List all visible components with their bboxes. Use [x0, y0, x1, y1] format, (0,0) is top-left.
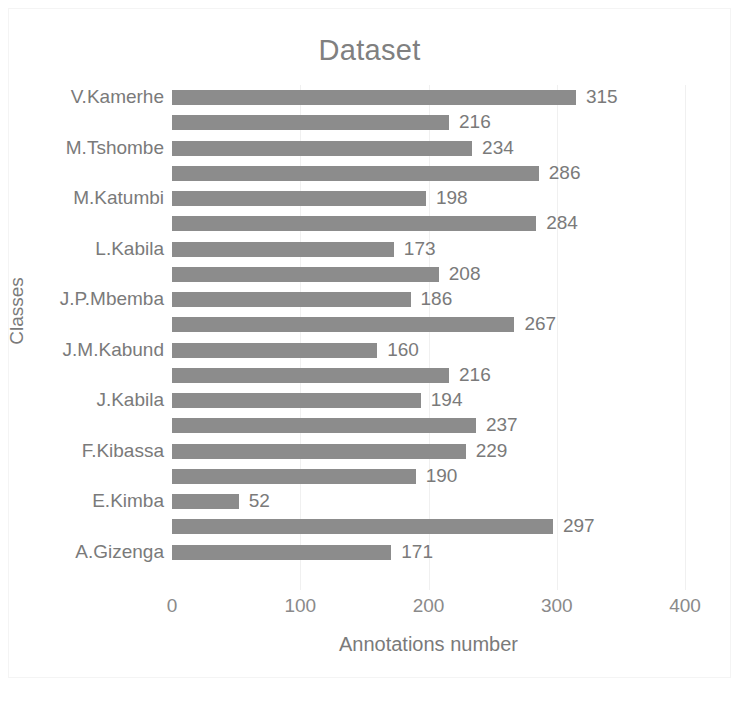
- bar[interactable]: [172, 90, 576, 105]
- plot-area: 3152162342861982841732081862671602161942…: [172, 85, 685, 590]
- x-axis-tick-300: 300: [541, 595, 573, 617]
- bar-value-label: 190: [426, 465, 458, 487]
- bar-value-label: 284: [546, 212, 578, 234]
- bar[interactable]: [172, 242, 394, 257]
- y-axis-tick-label: E.Kimba: [4, 490, 164, 512]
- bar-value-label: 237: [486, 414, 518, 436]
- bar-row: 186: [172, 287, 685, 312]
- y-axis-tick-label: L.Kabila: [4, 238, 164, 260]
- bar-row: 198: [172, 186, 685, 211]
- bar[interactable]: [172, 115, 449, 130]
- bar-value-label: 194: [431, 389, 463, 411]
- bar-value-label: 208: [449, 263, 481, 285]
- bar-value-label: 315: [586, 86, 618, 108]
- bar-row: 315: [172, 85, 685, 110]
- bar[interactable]: [172, 545, 391, 560]
- bar-value-label: 297: [563, 515, 595, 537]
- bar-value-label: 171: [401, 541, 433, 563]
- chart-title: Dataset: [0, 34, 739, 67]
- bar[interactable]: [172, 343, 377, 358]
- bar-row: 216: [172, 363, 685, 388]
- bar-value-label: 186: [421, 288, 453, 310]
- bar-row: 190: [172, 464, 685, 489]
- y-axis-tick-label: M.Tshombe: [4, 137, 164, 159]
- bar-row: 216: [172, 110, 685, 135]
- y-axis-tick-label: V.Kamerhe: [4, 86, 164, 108]
- bar[interactable]: [172, 393, 421, 408]
- bar[interactable]: [172, 494, 239, 509]
- bar-row: 286: [172, 161, 685, 186]
- x-axis-tick-labels: 0100200300400: [172, 595, 685, 621]
- gridline-400: [685, 85, 686, 590]
- bar-row: 194: [172, 388, 685, 413]
- bar-value-label: 216: [459, 364, 491, 386]
- bar-row: 208: [172, 262, 685, 287]
- bar-value-label: 229: [476, 440, 508, 462]
- bar[interactable]: [172, 469, 416, 484]
- y-axis-tick-label: J.P.Mbemba: [4, 288, 164, 310]
- bar[interactable]: [172, 317, 514, 332]
- bar-row: 234: [172, 136, 685, 161]
- y-axis-tick-label: A.Gizenga: [4, 541, 164, 563]
- x-axis-tick-100: 100: [284, 595, 316, 617]
- y-axis-tick-label: M.Katumbi: [4, 187, 164, 209]
- bar[interactable]: [172, 191, 426, 206]
- bar[interactable]: [172, 519, 553, 534]
- y-axis-tick-labels: V.KamerheM.TshombeM.KatumbiL.KabilaJ.P.M…: [0, 85, 164, 590]
- bar[interactable]: [172, 418, 476, 433]
- bar-row: 284: [172, 211, 685, 236]
- bar-row: 237: [172, 413, 685, 438]
- bar-row: 297: [172, 514, 685, 539]
- bar-row: 173: [172, 237, 685, 262]
- y-axis-tick-label: J.M.Kabund: [4, 339, 164, 361]
- bar[interactable]: [172, 368, 449, 383]
- bar-value-label: 216: [459, 111, 491, 133]
- bar[interactable]: [172, 141, 472, 156]
- bar[interactable]: [172, 216, 536, 231]
- y-axis-tick-label: J.Kabila: [4, 389, 164, 411]
- bar-row: 171: [172, 540, 685, 565]
- bar-value-label: 173: [404, 238, 436, 260]
- bar-value-label: 52: [249, 490, 270, 512]
- x-axis-tick-400: 400: [669, 595, 701, 617]
- bar-row: 229: [172, 439, 685, 464]
- bar-row: 52: [172, 489, 685, 514]
- x-axis-title: Annotations number: [172, 633, 685, 656]
- bar[interactable]: [172, 166, 539, 181]
- bar[interactable]: [172, 292, 411, 307]
- bar-value-label: 198: [436, 187, 468, 209]
- bar[interactable]: [172, 267, 439, 282]
- bar-value-label: 160: [387, 339, 419, 361]
- x-axis-tick-0: 0: [167, 595, 178, 617]
- x-axis-tick-200: 200: [413, 595, 445, 617]
- chart-figure: Dataset Classes V.KamerheM.TshombeM.Katu…: [0, 0, 739, 704]
- bar-row: 267: [172, 312, 685, 337]
- bar-row: 160: [172, 338, 685, 363]
- y-axis-tick-label: F.Kibassa: [4, 440, 164, 462]
- bar[interactable]: [172, 444, 466, 459]
- bar-value-label: 286: [549, 162, 581, 184]
- bar-value-label: 234: [482, 137, 514, 159]
- bar-value-label: 267: [524, 313, 556, 335]
